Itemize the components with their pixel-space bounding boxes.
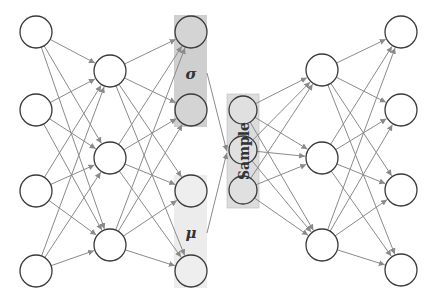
edge (207, 73, 227, 151)
encoder-hidden-node (94, 142, 126, 174)
edge (251, 84, 313, 178)
edge (207, 153, 227, 233)
edge (125, 164, 175, 185)
edge (44, 85, 101, 177)
encoder-hidden-node (94, 55, 126, 87)
input-node (20, 16, 52, 48)
mu-label: μ (186, 224, 197, 242)
mu-node (175, 255, 207, 287)
output-node (385, 16, 417, 48)
decoder-hidden-node (306, 54, 338, 86)
edge (336, 39, 385, 63)
edge (337, 250, 385, 265)
input-node (20, 94, 52, 126)
output-node (385, 254, 417, 286)
output-node (385, 94, 417, 126)
edge (45, 172, 101, 257)
edge (119, 84, 182, 177)
edge (124, 39, 175, 64)
sigma-node (175, 94, 207, 126)
mu-node (175, 175, 207, 207)
edge (336, 77, 386, 102)
input-node (20, 255, 52, 287)
edge (49, 119, 95, 149)
sample-label: Sample (236, 122, 252, 180)
edge (330, 125, 392, 232)
edge (250, 122, 313, 230)
edge (337, 164, 385, 184)
nodes (20, 16, 417, 287)
decoder-hidden-node (306, 229, 338, 261)
decoder-hidden-node (306, 142, 338, 174)
edge (125, 250, 175, 266)
edge (44, 46, 101, 144)
encoder-hidden-node (94, 229, 126, 261)
vae-diagram: σ μ Sample (0, 0, 435, 301)
output-node (385, 174, 417, 206)
edge (335, 200, 387, 236)
edge (123, 200, 177, 236)
sample-node (229, 96, 257, 124)
edge (51, 251, 94, 266)
edge (50, 39, 95, 63)
sigma-label: σ (185, 65, 197, 83)
input-node (20, 175, 52, 207)
edge (252, 161, 311, 232)
edge (124, 78, 175, 103)
edge (257, 151, 305, 156)
sigma-node (175, 16, 207, 48)
edge (254, 198, 308, 235)
edge (255, 78, 306, 104)
